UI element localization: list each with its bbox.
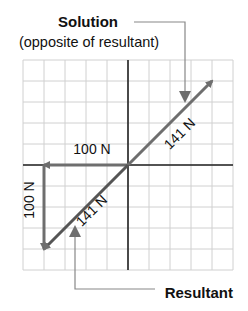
- horizontal-force-label: 100 N: [73, 141, 110, 157]
- resultant-label: Resultant: [165, 284, 233, 301]
- resultant-callout-line: [75, 236, 155, 289]
- solution-subtitle: (opposite of resultant): [19, 34, 159, 50]
- solution-title: Solution: [58, 13, 118, 30]
- vector-diagram: Solution (opposite of resultant) Resulta…: [0, 0, 248, 311]
- resultant-magnitude-label: 141 N: [73, 192, 111, 230]
- solution-callout-arrow: [179, 91, 191, 103]
- resultant-callout-arrow: [69, 225, 81, 237]
- solution-magnitude-label: 141 N: [161, 115, 199, 153]
- vertical-force-label: 100 N: [21, 181, 37, 218]
